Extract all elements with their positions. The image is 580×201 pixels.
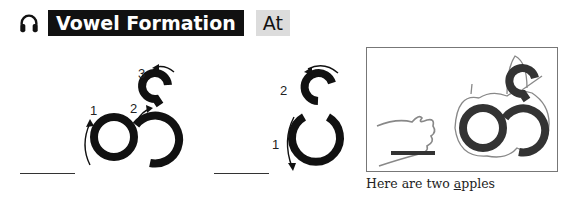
headphones-icon[interactable] [18, 12, 40, 34]
stroke-number-2: 2 [130, 101, 137, 116]
caption-text-prefix: Here are two [366, 176, 454, 191]
picture-frame [366, 47, 558, 172]
stroke-number-1b: 1 [272, 137, 279, 152]
writing-line-1 [20, 173, 75, 174]
sound-label: At [256, 10, 290, 36]
stroke-number-1: 1 [90, 103, 97, 118]
section-title: Vowel Formation [48, 10, 244, 36]
caption-underlined-letter: a [454, 176, 461, 191]
writing-line-2 [214, 173, 269, 174]
stroke-number-3: 3 [138, 66, 145, 81]
lesson-header: Vowel Formation At [18, 10, 290, 36]
letter-stroke-diagram-2: 1 2 [270, 55, 360, 175]
caption-text-suffix: pples [461, 176, 495, 191]
stroke-number-2b: 2 [280, 83, 287, 98]
letter-stroke-diagram-1: 1 2 3 [70, 55, 200, 175]
hand-and-apples-illustration [367, 48, 557, 171]
picture-caption: Here are two apples [366, 176, 495, 191]
